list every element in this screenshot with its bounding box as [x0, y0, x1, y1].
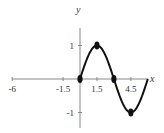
key-point [94, 42, 99, 50]
key-point [111, 75, 116, 83]
sine-chart: -6-1.51.54.51-1 x y [0, 0, 164, 133]
key-point [128, 109, 133, 117]
x-tick-label: -6 [8, 84, 16, 94]
y-axis-label: y [75, 4, 81, 15]
y-tick-label: -1 [67, 108, 75, 118]
key-point [77, 75, 82, 83]
y-tick-label: 1 [70, 41, 75, 51]
x-tick-label: -1.5 [56, 84, 71, 94]
x-tick-label: 4.5 [125, 84, 137, 94]
x-axis-label: x [149, 73, 155, 84]
x-tick-label: 1.5 [91, 84, 103, 94]
